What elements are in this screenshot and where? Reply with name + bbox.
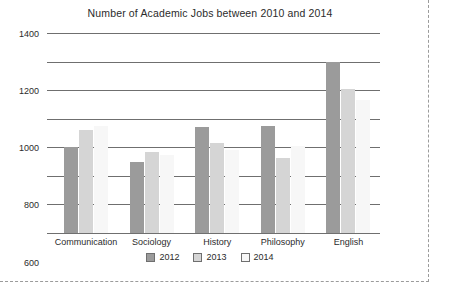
- y-axis-tick-label: 1400: [19, 29, 39, 39]
- legend-swatch: [241, 253, 250, 262]
- legend-label: 2012: [159, 252, 179, 262]
- y-axis-tick-label: 800: [24, 200, 39, 210]
- chart-legend: 201220132014: [0, 252, 420, 262]
- legend-label: 2013: [206, 252, 226, 262]
- x-axis-tick-label: Communication: [55, 237, 118, 247]
- y-axis-tick-label: 1000: [19, 143, 39, 153]
- x-axis-line: [52, 233, 380, 234]
- bar[interactable]: [64, 147, 78, 233]
- bar[interactable]: [160, 155, 174, 233]
- legend-item[interactable]: 2013: [193, 252, 226, 262]
- bar[interactable]: [79, 130, 93, 233]
- bar[interactable]: [210, 143, 224, 233]
- x-axis-tick-label: English: [334, 237, 364, 247]
- chart-page: Number of Academic Jobs between 2010 and…: [0, 0, 453, 295]
- bar[interactable]: [291, 146, 305, 233]
- page-border-right: [428, 0, 429, 282]
- bar[interactable]: [195, 127, 209, 233]
- bar-group: [322, 33, 380, 233]
- plot-area: 0200400600800100012001400 CommunicationS…: [52, 33, 380, 233]
- legend-item[interactable]: 2012: [146, 252, 179, 262]
- bar[interactable]: [145, 152, 159, 233]
- bars-layer: [52, 33, 380, 233]
- page-border-bottom: [0, 281, 429, 282]
- bar[interactable]: [356, 100, 370, 233]
- bar-group: [60, 33, 118, 233]
- bar[interactable]: [261, 126, 275, 233]
- legend-item[interactable]: 2014: [241, 252, 274, 262]
- bar-group: [126, 33, 184, 233]
- bar[interactable]: [341, 89, 355, 233]
- x-axis-tick-label: History: [203, 237, 231, 247]
- legend-swatch: [146, 253, 155, 262]
- x-axis-tick-label: Sociology: [132, 237, 171, 247]
- bar[interactable]: [130, 162, 144, 233]
- bar[interactable]: [225, 150, 239, 233]
- chart-title: Number of Academic Jobs between 2010 and…: [0, 7, 420, 19]
- x-axis-tick-label: Philosophy: [261, 237, 305, 247]
- bar[interactable]: [276, 158, 290, 233]
- y-axis-tick-label: 1200: [19, 86, 39, 96]
- bar[interactable]: [94, 126, 108, 233]
- legend-label: 2014: [254, 252, 274, 262]
- bar[interactable]: [326, 62, 340, 233]
- bar-group: [191, 33, 249, 233]
- bar-group: [257, 33, 315, 233]
- legend-swatch: [193, 253, 202, 262]
